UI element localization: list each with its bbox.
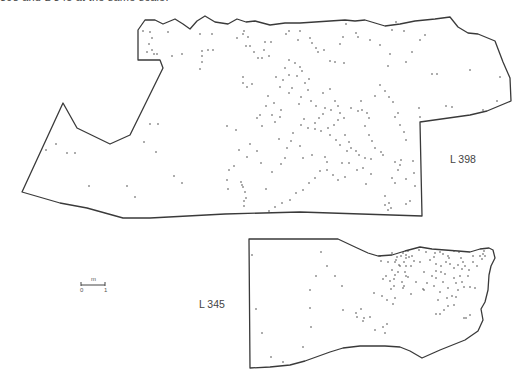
find-dot — [243, 205, 245, 207]
find-dot — [380, 151, 382, 153]
find-dot — [435, 313, 437, 315]
find-dot — [358, 154, 360, 156]
find-dot — [245, 197, 247, 199]
find-dot — [339, 43, 341, 45]
find-dot — [419, 39, 421, 41]
find-dot — [226, 179, 228, 181]
find-dot — [322, 113, 324, 115]
find-dot — [300, 124, 302, 126]
find-dot — [55, 143, 57, 145]
find-dot — [282, 79, 284, 81]
find-dot — [397, 112, 399, 114]
find-dot — [394, 116, 396, 118]
scale-bar-unit-label: m — [91, 276, 96, 282]
find-dot — [370, 158, 372, 160]
find-dot — [412, 160, 414, 162]
find-dot — [405, 203, 407, 205]
find-dot — [380, 260, 382, 262]
find-dot — [484, 255, 486, 257]
find-dot — [459, 275, 461, 277]
find-dot — [434, 252, 436, 254]
find-dot — [391, 269, 393, 271]
find-dot — [261, 125, 263, 127]
find-dot — [251, 83, 253, 85]
find-dot — [268, 210, 270, 212]
find-dot — [447, 255, 449, 257]
find-dot — [260, 162, 262, 164]
find-dot — [469, 286, 471, 288]
find-dot — [402, 252, 404, 254]
find-dot — [256, 117, 258, 119]
find-dot — [307, 89, 309, 91]
find-dot — [319, 170, 321, 172]
find-dot — [435, 277, 437, 279]
find-dot — [288, 92, 290, 94]
find-dot — [261, 332, 263, 334]
find-dot — [334, 61, 336, 63]
find-dot — [286, 147, 288, 149]
find-dot — [379, 255, 381, 257]
find-dot — [479, 255, 481, 257]
find-dot — [242, 186, 244, 188]
find-dot — [386, 323, 388, 325]
find-dot — [333, 124, 335, 126]
find-dot — [496, 100, 498, 102]
find-dot — [483, 250, 485, 252]
find-dot — [288, 30, 290, 32]
find-dot — [355, 312, 357, 314]
find-dot — [126, 185, 128, 187]
find-dot — [403, 30, 405, 32]
find-dot — [149, 31, 151, 33]
find-dot — [462, 261, 464, 263]
find-dot — [329, 60, 331, 62]
find-dot — [461, 268, 463, 270]
find-dot — [356, 169, 358, 171]
find-dot — [426, 282, 428, 284]
find-dot — [339, 112, 341, 114]
find-dot — [404, 271, 406, 273]
find-dot — [345, 23, 347, 25]
find-dot — [280, 163, 282, 165]
find-dot — [402, 287, 404, 289]
find-dot — [431, 275, 433, 277]
find-dot — [309, 307, 311, 309]
find-dot — [270, 356, 272, 358]
find-dot — [247, 36, 249, 38]
find-dot — [249, 143, 251, 145]
find-dot — [385, 275, 387, 277]
find-dot — [400, 159, 402, 161]
find-dot — [405, 178, 407, 180]
find-dot — [446, 297, 448, 299]
find-dot — [463, 317, 465, 319]
find-dot — [397, 271, 399, 273]
find-dot — [405, 61, 407, 63]
find-dot — [439, 313, 441, 315]
find-dot — [391, 29, 393, 31]
find-dot — [242, 82, 244, 84]
find-dot — [256, 150, 258, 152]
find-dot — [360, 308, 362, 310]
find-dot — [465, 317, 467, 319]
find-dot — [384, 195, 386, 197]
find-dot — [339, 144, 341, 146]
find-dot — [335, 139, 337, 141]
plan-l398-finds — [45, 21, 501, 212]
find-dot — [405, 275, 407, 277]
find-dot — [201, 50, 203, 52]
find-dot — [403, 131, 405, 133]
find-dot — [310, 326, 312, 328]
find-dot — [350, 107, 352, 109]
find-dot — [393, 278, 395, 280]
find-dot — [270, 41, 272, 43]
find-dot — [151, 37, 153, 39]
find-dot — [259, 114, 261, 116]
find-dot — [348, 141, 350, 143]
find-dot — [302, 346, 304, 348]
find-dot — [373, 292, 375, 294]
find-dot — [379, 44, 381, 46]
find-dot — [391, 252, 393, 254]
find-dot — [245, 45, 247, 47]
find-dot — [153, 53, 155, 55]
find-dot — [403, 261, 405, 263]
find-dot — [469, 69, 471, 71]
